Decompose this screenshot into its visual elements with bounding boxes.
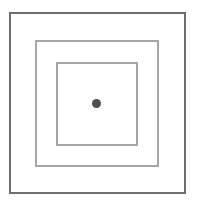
center-dot xyxy=(92,99,101,108)
